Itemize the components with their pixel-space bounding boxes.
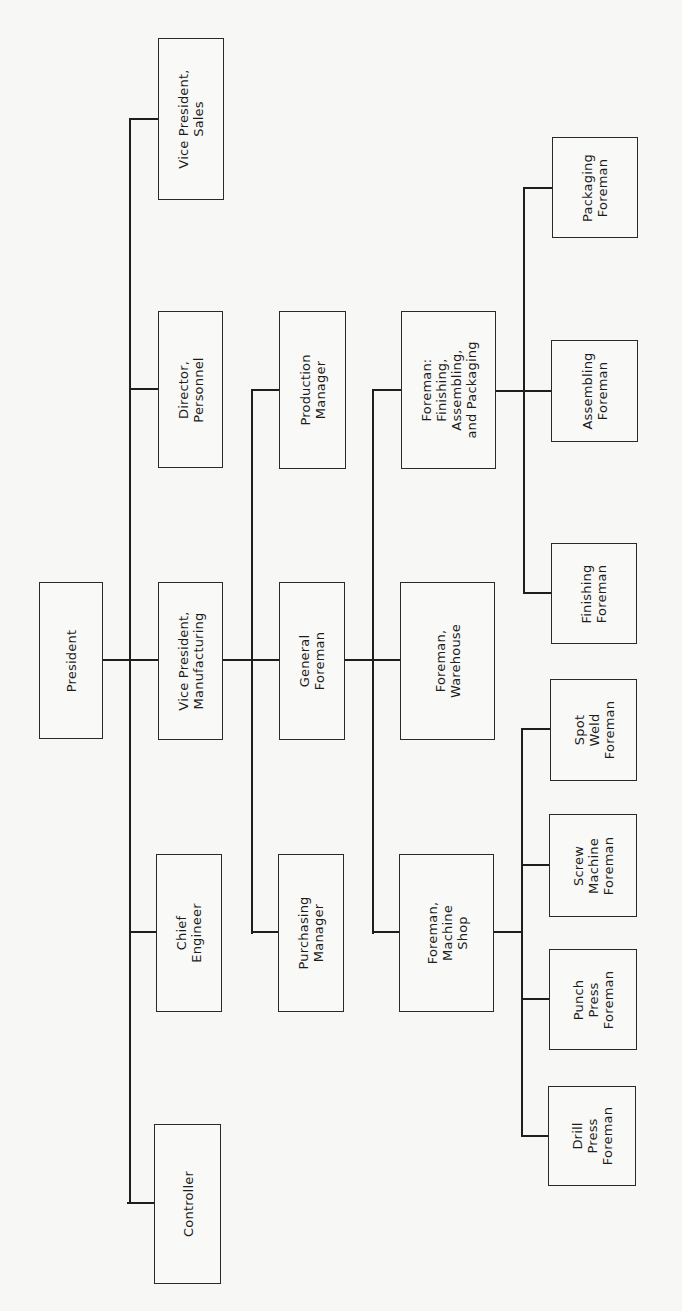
connector-foreman-machine-shop-out [494,931,523,933]
node-foreman-machine-shop: Foreman, Machine Shop [399,854,494,1012]
node-foreman-finishing-assembling-packaging: Foreman: Finishing, Assembling, and Pack… [401,311,496,469]
connector-director-personnel [129,388,158,390]
node-label: Vice President, Sales [176,69,206,168]
node-assembling-foreman: Assembling Foreman [551,340,638,442]
connector-drill-press-foreman [521,1135,548,1137]
node-label: Vice President, Manufacturing [176,611,206,710]
node-label: Production Manager [298,354,328,425]
connector-vp-sales [129,118,158,120]
connector-purchasing-manager [251,931,278,933]
node-director-personnel: Director, Personnel [158,311,223,468]
node-vp-sales: Vice President, Sales [158,38,224,200]
node-label: Assembling Foreman [580,352,610,429]
node-vp-manufacturing: Vice President, Manufacturing [158,582,223,740]
trunk-vp-manufacturing [251,389,253,934]
connector-chief-engineer [129,931,156,933]
node-production-manager: Production Manager [279,311,346,469]
node-screw-machine-foreman: Screw Machine Foreman [549,814,637,917]
connector-punch-press-foreman [521,998,549,1000]
trunk-general-foreman [372,389,374,934]
node-spot-weld-foreman: Spot Weld Foreman [550,679,637,781]
node-label: Screw Machine Foreman [571,836,616,894]
connector-screw-machine-foreman [521,864,549,866]
node-label: Purchasing Manager [296,896,326,969]
connector-finishing-foreman [523,592,551,594]
node-drill-press-foreman: Drill Press Foreman [548,1086,636,1186]
node-finishing-foreman: Finishing Foreman [551,543,637,644]
connector-vp-manufacturing [223,659,279,661]
node-label: Controller [180,1171,195,1237]
connector-spot-weld-foreman [521,728,550,730]
connector-controller [127,1202,154,1204]
node-label: General Foreman [297,632,327,690]
node-foreman-warehouse: Foreman, Warehouse [400,582,495,740]
node-president: President [39,582,103,739]
node-label: Punch Press Foreman [571,970,616,1028]
node-label: Foreman, Warehouse [433,624,463,698]
node-chief-engineer: Chief Engineer [156,854,222,1012]
trunk-president [129,118,131,1204]
node-label: Chief Engineer [174,903,204,963]
node-punch-press-foreman: Punch Press Foreman [549,949,637,1050]
node-label: Spot Weld Foreman [571,701,616,759]
node-packaging-foreman: Packaging Foreman [552,137,638,238]
connector-production-manager [251,389,279,391]
node-label: Packaging Foreman [580,154,610,222]
org-chart: President Vice President, Sales Director… [0,0,682,1311]
node-general-foreman: General Foreman [279,582,345,740]
node-label: Foreman: Finishing, Assembling, and Pack… [419,341,479,438]
connector-packaging-foreman [523,187,552,189]
connector-foreman-fap [372,389,401,391]
node-label: President [64,629,79,691]
node-purchasing-manager: Purchasing Manager [278,854,344,1012]
node-label: Drill Press Foreman [570,1107,615,1165]
node-controller: Controller [154,1124,221,1284]
connector-foreman-fap-out [496,390,551,392]
node-label: Director, Personnel [176,357,206,422]
connector-president [103,659,158,661]
connector-general-foreman [345,659,400,661]
node-label: Foreman, Machine Shop [424,902,469,965]
node-label: Finishing Foreman [579,564,609,623]
connector-foreman-machine-shop [372,931,399,933]
